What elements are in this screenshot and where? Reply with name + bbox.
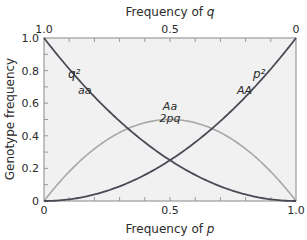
svg-text:0: 0	[41, 204, 48, 217]
top-tick-labels: 1.00.50	[35, 23, 299, 36]
svg-text:0.5: 0.5	[161, 23, 179, 36]
svg-text:0.2: 0.2	[22, 162, 40, 175]
svg-text:p²: p²	[252, 67, 266, 81]
svg-text:q²: q²	[68, 67, 81, 81]
svg-text:1.0: 1.0	[287, 204, 305, 217]
bottom-tick-labels: 00.51.0	[41, 204, 305, 217]
svg-text:0: 0	[293, 23, 300, 36]
svg-text:0: 0	[32, 195, 39, 208]
genotype-frequency-chart: Frequency of q Frequency of p Genotype f…	[0, 0, 307, 240]
svg-text:0.5: 0.5	[161, 204, 179, 217]
bottom-axis-title: Frequency of p	[126, 222, 215, 236]
svg-text:AA: AA	[236, 84, 252, 97]
svg-text:0.8: 0.8	[22, 65, 40, 78]
svg-text:2pq: 2pq	[160, 112, 181, 125]
svg-text:1.0: 1.0	[22, 32, 40, 45]
top-axis-title: Frequency of q	[126, 5, 215, 19]
svg-text:aa: aa	[78, 84, 92, 97]
svg-text:0.4: 0.4	[22, 130, 40, 143]
y-axis-title: Genotype frequency	[3, 58, 17, 180]
svg-text:0.6: 0.6	[22, 97, 40, 110]
y-tick-labels: 00.20.40.60.81.0	[22, 32, 40, 208]
